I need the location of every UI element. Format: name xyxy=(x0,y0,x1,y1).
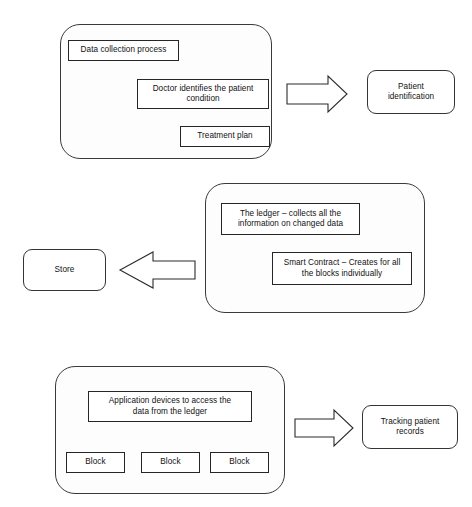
node-patient-identification[interactable]: Patient identification xyxy=(367,70,455,114)
flow-diagram: Data collection process Doctor identifie… xyxy=(0,0,472,507)
node-label: Patient identification xyxy=(388,82,434,103)
row1-block-arrow xyxy=(287,76,347,112)
node-block-3[interactable]: Block xyxy=(210,452,269,473)
node-label: Block xyxy=(229,457,249,468)
node-label: Block xyxy=(160,457,180,468)
node-label: Store xyxy=(55,265,75,276)
node-label: Data collection process xyxy=(81,45,167,56)
node-label: Smart Contract – Creates for all the blo… xyxy=(284,258,401,279)
node-the-ledger[interactable]: The ledger – collects all the informatio… xyxy=(221,203,360,235)
node-smart-contract[interactable]: Smart Contract – Creates for all the blo… xyxy=(272,252,412,285)
node-application-devices[interactable]: Application devices to access the data f… xyxy=(88,391,252,422)
application-panel xyxy=(55,366,285,494)
node-label: Application devices to access the data f… xyxy=(109,396,231,417)
node-data-collection-process[interactable]: Data collection process xyxy=(68,40,179,61)
node-treatment-plan[interactable]: Treatment plan xyxy=(180,126,270,147)
row2-block-arrow xyxy=(120,252,195,288)
node-label: Tracking patient records xyxy=(381,417,440,438)
node-tracking-patient-records[interactable]: Tracking patient records xyxy=(362,405,458,449)
node-block-2[interactable]: Block xyxy=(141,452,200,473)
node-block-1[interactable]: Block xyxy=(66,452,125,473)
node-label: Doctor identifies the patient condition xyxy=(153,84,254,105)
node-label: The ledger – collects all the informatio… xyxy=(238,209,343,230)
row3-block-arrow xyxy=(295,410,353,446)
node-doctor-identifies-condition[interactable]: Doctor identifies the patient condition xyxy=(137,79,269,109)
node-store[interactable]: Store xyxy=(23,249,106,291)
node-label: Block xyxy=(85,457,105,468)
node-label: Treatment plan xyxy=(197,131,252,142)
